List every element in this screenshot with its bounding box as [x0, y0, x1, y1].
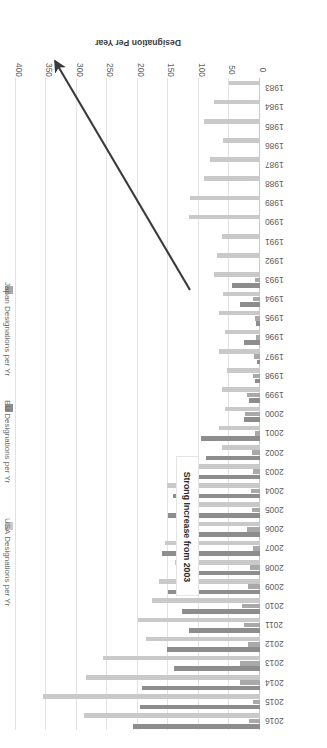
bar — [252, 450, 260, 455]
year-tick-label: 2011 — [265, 615, 325, 634]
value-tick-label: 0 — [258, 50, 268, 90]
bar-group: 1994 — [16, 289, 260, 308]
year-tick-label: 2003 — [265, 462, 325, 481]
year-tick-label: 1994 — [265, 289, 325, 308]
bar — [223, 138, 260, 143]
year-tick-label: 1986 — [265, 136, 325, 155]
bar-group: 2000 — [16, 404, 260, 423]
value-tick-label: 250 — [106, 50, 116, 90]
bar — [222, 387, 260, 392]
year-tick-label: 2009 — [265, 577, 325, 596]
bar — [189, 475, 260, 480]
value-axis: Designation Per Year 0501001502002503003… — [16, 32, 260, 78]
bar — [256, 335, 260, 340]
bar — [159, 579, 260, 584]
bar — [244, 417, 260, 422]
chart-figure: 2016201520142013201220112010200920082007… — [0, 0, 327, 748]
bar — [247, 527, 260, 532]
legend-label: Japan Designations per Yr — [3, 282, 12, 376]
bar — [223, 292, 260, 297]
bar — [240, 302, 260, 307]
year-tick-label: 2006 — [265, 519, 325, 538]
bar — [189, 215, 260, 220]
bar — [217, 253, 260, 258]
bar — [204, 119, 260, 124]
annotation-callout: Strong Increase from 2003 — [176, 456, 199, 596]
bar — [244, 341, 260, 346]
year-tick-label: 1995 — [265, 308, 325, 327]
bar-group: 2007 — [16, 538, 260, 557]
bar — [240, 661, 260, 666]
annotation-label: Strong Increase from 2003 — [183, 458, 193, 596]
year-tick-label: 1990 — [265, 212, 325, 231]
bar — [252, 508, 260, 513]
bar — [219, 311, 260, 316]
bar-group: 2013 — [16, 653, 260, 672]
bar — [227, 368, 260, 373]
year-tick-label: 1997 — [265, 346, 325, 365]
year-tick-label: 2000 — [265, 404, 325, 423]
bar — [250, 565, 260, 570]
bar-group: 1995 — [16, 308, 260, 327]
bar — [222, 234, 260, 239]
bar-group: 2004 — [16, 481, 260, 500]
bar-group: 2012 — [16, 634, 260, 653]
bar-group: 1986 — [16, 136, 260, 155]
bar-group: 1989 — [16, 193, 260, 212]
bar-group: 1987 — [16, 155, 260, 174]
bar-group: 2001 — [16, 423, 260, 442]
year-tick-label: 1991 — [265, 231, 325, 250]
year-tick-label: 2013 — [265, 653, 325, 672]
bar — [210, 157, 260, 162]
bar — [167, 647, 260, 652]
bar-group: 1984 — [16, 97, 260, 116]
bar — [103, 656, 260, 661]
bar — [253, 546, 260, 551]
bar — [194, 464, 260, 469]
bar — [242, 604, 260, 609]
bar — [248, 584, 260, 589]
bar-group: 1998 — [16, 366, 260, 385]
bar — [248, 642, 260, 647]
bar — [240, 680, 260, 685]
year-tick-label: 1989 — [265, 193, 325, 212]
bar-group: 1990 — [16, 212, 260, 231]
bar — [253, 469, 260, 474]
bar — [146, 637, 260, 642]
value-tick-label: 150 — [167, 50, 177, 90]
legend-label: USA Designations per Yr — [3, 518, 12, 606]
bar — [138, 618, 260, 623]
bar-group: 1997 — [16, 346, 260, 365]
bar — [251, 489, 260, 494]
bar — [253, 700, 260, 705]
year-tick-label: 2015 — [265, 692, 325, 711]
year-tick-label: 1993 — [265, 270, 325, 289]
year-tick-label: 1987 — [265, 155, 325, 174]
bar-group: 1992 — [16, 251, 260, 270]
bar — [189, 628, 260, 633]
bar-group: 2008 — [16, 557, 260, 576]
bar-group: 2002 — [16, 442, 260, 461]
value-tick-label: 300 — [75, 50, 85, 90]
bar — [133, 724, 260, 729]
bar-group: 1996 — [16, 327, 260, 346]
year-tick-label: 2005 — [265, 500, 325, 519]
bar — [232, 283, 260, 288]
year-tick-label: 2007 — [265, 538, 325, 557]
value-axis-title: Designation Per Year — [16, 38, 260, 48]
value-tick-label: 50 — [228, 50, 238, 90]
bar — [255, 431, 260, 436]
bar — [257, 360, 260, 365]
value-tick-label: 200 — [136, 50, 146, 90]
bar — [249, 398, 260, 403]
bar-group: 2015 — [16, 692, 260, 711]
year-tick-label: 2012 — [265, 634, 325, 653]
year-tick-label: 2001 — [265, 423, 325, 442]
year-tick-label: 1999 — [265, 385, 325, 404]
bar — [256, 321, 260, 326]
year-tick-label: 1996 — [265, 327, 325, 346]
bar — [225, 330, 260, 335]
bar — [86, 675, 260, 680]
bar — [245, 412, 260, 417]
bar — [84, 713, 260, 718]
